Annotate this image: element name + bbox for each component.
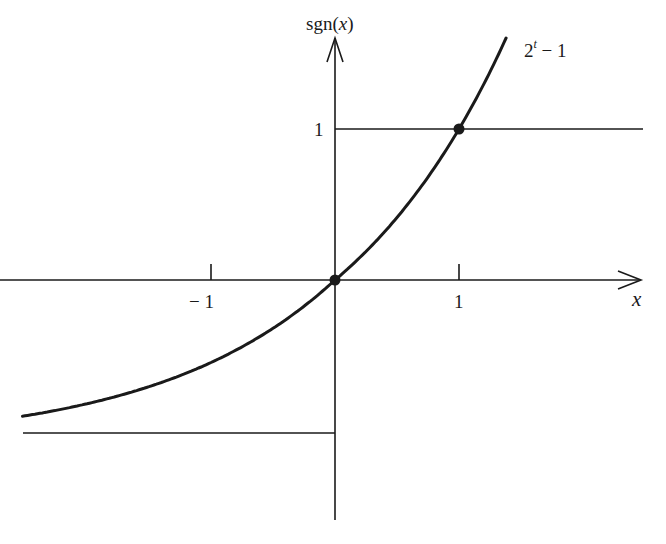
curve-label: 2t − 1 [524,37,567,61]
point-1-1 [454,124,465,135]
x-axis-label: x [631,287,642,311]
point-origin [330,275,341,286]
x-tick-label-neg1: − 1 [189,291,214,312]
y-tick-label-1: 1 [314,119,324,140]
curve-2t-minus-1 [23,38,507,416]
sign-function-diagram: sgn(x) x 2t − 1 − 1 1 1 [0,0,666,544]
x-tick-label-pos1: 1 [454,291,464,312]
y-axis-label: sgn(x) [306,13,354,35]
